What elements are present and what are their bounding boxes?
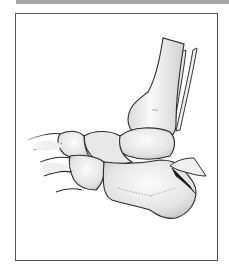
talus-bone bbox=[117, 128, 174, 159]
foot-skeleton-illustration bbox=[0, 0, 229, 280]
tibia-bone bbox=[128, 38, 184, 140]
